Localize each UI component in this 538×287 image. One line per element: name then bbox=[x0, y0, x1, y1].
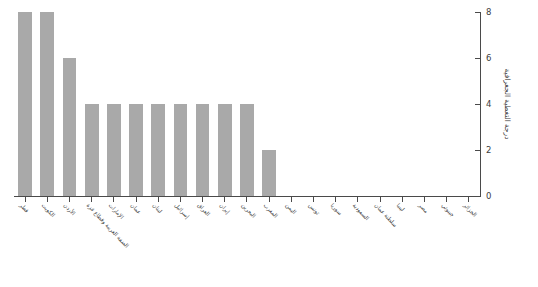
x-axis-tick-label: الإمارات bbox=[107, 202, 124, 220]
y-tick bbox=[475, 58, 480, 59]
x-label-slot: الكويت bbox=[36, 202, 58, 287]
bar-slot bbox=[169, 12, 191, 196]
y-tick bbox=[475, 150, 480, 151]
bar-slot bbox=[192, 12, 214, 196]
x-axis-tick-label: اليمن bbox=[285, 202, 298, 215]
bar[interactable] bbox=[107, 104, 121, 196]
x-label-slot: سلطنة عمان bbox=[369, 202, 391, 287]
x-axis-tick-label: سوريا bbox=[329, 202, 343, 216]
x-label-slot: الإمارات bbox=[103, 202, 125, 287]
y-tick bbox=[475, 196, 480, 197]
x-label-slot: جيبوتي bbox=[436, 202, 458, 287]
y-axis-line bbox=[480, 12, 481, 197]
bar[interactable] bbox=[218, 104, 232, 196]
bar-slot bbox=[58, 12, 80, 196]
x-axis-tick-label: العراق bbox=[196, 202, 211, 217]
bar-slot bbox=[280, 12, 302, 196]
bar[interactable] bbox=[196, 104, 210, 196]
x-axis-tick-label: ليبيا bbox=[396, 202, 406, 212]
y-axis-tick-label: 2 bbox=[486, 145, 491, 155]
x-axis-tick-label: الكويت bbox=[41, 202, 57, 218]
y-axis-tick-label: 8 bbox=[486, 7, 491, 17]
bar[interactable] bbox=[240, 104, 254, 196]
bar-slot bbox=[103, 12, 125, 196]
x-label-slot: ليبيا bbox=[391, 202, 413, 287]
x-axis-tick-label: قطر bbox=[19, 202, 31, 214]
x-label-slot: الضفة الغربية وقطاع غزة bbox=[81, 202, 103, 287]
x-label-slot: قطر bbox=[14, 202, 36, 287]
y-tick bbox=[475, 12, 480, 13]
x-label-slot: الجزائر bbox=[458, 202, 480, 287]
bar[interactable] bbox=[18, 12, 32, 196]
x-axis-tick-label: البحرين bbox=[240, 202, 256, 219]
x-axis-tick-label: جيبوتي bbox=[440, 202, 455, 218]
x-axis-tick-label: لبنان bbox=[152, 202, 164, 214]
y-axis-tick-label: 6 bbox=[486, 53, 491, 63]
x-label-slot: السعودية bbox=[347, 202, 369, 287]
bar[interactable] bbox=[85, 104, 99, 196]
x-axis-tick-label: إسرائيل bbox=[174, 202, 191, 220]
x-label-slot: إسرائيل bbox=[169, 202, 191, 287]
x-label-slot: سوريا bbox=[325, 202, 347, 287]
x-axis-labels: قطرالكويتالأردنالضفة الغربية وقطاع غزةال… bbox=[14, 202, 480, 287]
bar-slot bbox=[347, 12, 369, 196]
x-axis-tick-label: عمان bbox=[130, 202, 143, 215]
bar-slot bbox=[413, 12, 435, 196]
bar[interactable] bbox=[40, 12, 54, 196]
x-label-slot: الأردن bbox=[58, 202, 80, 287]
bar-slot bbox=[436, 12, 458, 196]
bar-slot bbox=[325, 12, 347, 196]
bar-slot bbox=[81, 12, 103, 196]
x-label-slot: لبنان bbox=[147, 202, 169, 287]
bar[interactable] bbox=[174, 104, 188, 196]
x-label-slot: المغرب bbox=[258, 202, 280, 287]
bar-slot bbox=[147, 12, 169, 196]
x-axis-tick-label: مصر bbox=[418, 202, 430, 214]
x-label-slot: العراق bbox=[192, 202, 214, 287]
y-axis-tick-label: 4 bbox=[486, 99, 491, 109]
y-axis-tick-label: 0 bbox=[486, 191, 491, 201]
bars-layer bbox=[14, 12, 480, 196]
x-axis-tick-label: الجزائر bbox=[462, 202, 478, 218]
bar-slot bbox=[125, 12, 147, 196]
y-tick bbox=[475, 104, 480, 105]
x-axis-tick-label: المغرب bbox=[263, 202, 279, 219]
bar[interactable] bbox=[129, 104, 143, 196]
x-label-slot: اليمن bbox=[280, 202, 302, 287]
bar-slot bbox=[258, 12, 280, 196]
bar[interactable] bbox=[151, 104, 165, 196]
bar-slot bbox=[369, 12, 391, 196]
x-label-slot: عمان bbox=[125, 202, 147, 287]
y-axis-ticks bbox=[475, 12, 480, 196]
x-axis-tick-label: تونس bbox=[307, 202, 320, 216]
plot-area bbox=[14, 12, 480, 196]
y-axis-title: درجة التغطية الجغرافية bbox=[498, 12, 512, 196]
bar-slot bbox=[14, 12, 36, 196]
bar-slot bbox=[236, 12, 258, 196]
bar[interactable] bbox=[63, 58, 77, 196]
bar-slot bbox=[391, 12, 413, 196]
bar-chart: قطرالكويتالأردنالضفة الغربية وقطاع غزةال… bbox=[0, 0, 538, 287]
x-label-slot: مصر bbox=[413, 202, 435, 287]
bar-slot bbox=[302, 12, 324, 196]
bar-slot bbox=[36, 12, 58, 196]
x-axis-tick-label: السعودية bbox=[351, 202, 370, 221]
x-label-slot: البحرين bbox=[236, 202, 258, 287]
bar[interactable] bbox=[262, 150, 276, 196]
x-axis-tick-label: إيران bbox=[218, 202, 231, 215]
x-axis-tick-label: الأردن bbox=[63, 202, 77, 216]
bar-slot bbox=[214, 12, 236, 196]
x-label-slot: إيران bbox=[214, 202, 236, 287]
x-label-slot: تونس bbox=[302, 202, 324, 287]
